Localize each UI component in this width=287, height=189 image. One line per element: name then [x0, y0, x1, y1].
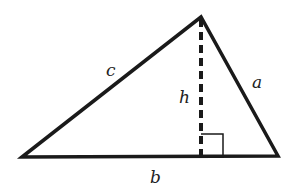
triangle-diagram: c h a b	[0, 0, 287, 189]
label-height-h: h	[179, 87, 190, 107]
label-side-a: a	[252, 72, 262, 92]
triangle	[22, 17, 278, 157]
label-side-c: c	[106, 60, 116, 80]
label-side-b: b	[150, 167, 161, 187]
right-angle-marker	[201, 134, 223, 156]
